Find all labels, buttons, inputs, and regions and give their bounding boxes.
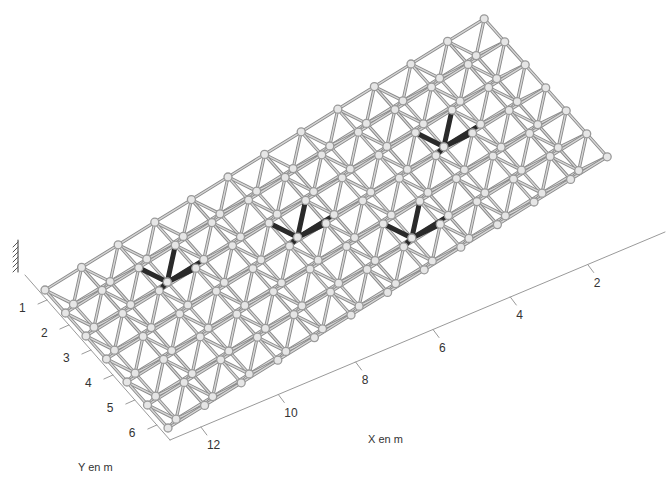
bottom-node: [399, 97, 407, 105]
top-node: [562, 107, 570, 115]
bottom-node: [131, 369, 139, 377]
top-node: [297, 128, 305, 136]
support-hatch: [13, 262, 18, 267]
bottom-node: [278, 279, 286, 287]
top-node: [359, 197, 367, 205]
x-tick-mark: [278, 395, 284, 403]
support-hatch: [13, 257, 18, 262]
y-tick-mark: [38, 300, 47, 304]
support-hatch: [13, 242, 18, 247]
top-node: [160, 355, 168, 363]
top-node: [457, 243, 465, 251]
top-node: [375, 151, 383, 159]
top-node: [343, 242, 351, 250]
bottom-node: [493, 75, 501, 83]
top-node: [237, 379, 245, 387]
x-tick-label: 6: [439, 342, 446, 354]
bottom-node: [383, 142, 391, 150]
bottom-node: [147, 324, 155, 332]
y-tick-mark: [82, 350, 91, 354]
top-node: [505, 106, 513, 114]
x-axis-label: X en m: [368, 434, 403, 445]
bottom-node: [481, 189, 489, 197]
top-node: [78, 263, 86, 271]
top-node: [155, 287, 163, 295]
top-node: [480, 15, 488, 23]
top-node: [82, 332, 90, 340]
top-node: [233, 310, 241, 318]
bottom-node: [497, 143, 505, 151]
bottom-node: [444, 211, 452, 219]
x-tick-label: 8: [362, 374, 369, 386]
bottom-node: [168, 347, 176, 355]
bottom-node: [253, 187, 261, 195]
bottom-node: [143, 255, 151, 263]
top-node: [546, 152, 554, 160]
y-tick-mark: [148, 425, 157, 429]
top-node: [41, 286, 49, 294]
bottom-node: [355, 302, 363, 310]
top-node: [171, 241, 179, 249]
y-tick-label: 4: [85, 377, 92, 389]
top-node: [473, 198, 481, 206]
bottom-node: [184, 301, 192, 309]
top-node: [269, 288, 277, 296]
bottom-node: [188, 370, 196, 378]
truss-plot: [0, 0, 669, 481]
y-tick-mark: [60, 325, 69, 329]
top-node: [354, 128, 362, 136]
top-node: [485, 83, 493, 91]
top-node: [436, 220, 444, 228]
top-node: [432, 152, 440, 160]
top-node: [521, 61, 529, 69]
top-node: [327, 288, 335, 296]
bottom-node: [204, 324, 212, 332]
bottom-node: [294, 233, 302, 241]
top-node: [253, 333, 261, 341]
top-node: [452, 175, 460, 183]
top-node: [123, 378, 131, 386]
top-node: [338, 174, 346, 182]
axes-lines: [25, 232, 665, 440]
x-tick-mark: [510, 297, 516, 305]
bottom-node: [477, 120, 485, 128]
top-node: [428, 83, 436, 91]
top-node: [164, 424, 172, 432]
top-node: [265, 219, 273, 227]
top-node: [212, 287, 220, 295]
bottom-node: [172, 415, 180, 423]
top-node: [192, 264, 200, 272]
y-axis-label: Y en m: [78, 462, 113, 473]
top-node: [603, 153, 611, 161]
top-node: [302, 196, 310, 204]
bottom-node: [424, 188, 432, 196]
top-node: [201, 401, 209, 409]
bottom-node: [513, 98, 521, 106]
bottom-node: [392, 280, 400, 288]
x-tick-label: 4: [516, 309, 523, 321]
top-node: [384, 288, 392, 296]
bottom-node: [163, 278, 171, 286]
y-tick-label: 2: [41, 327, 48, 339]
top-node: [444, 37, 452, 45]
x-tick-mark: [588, 265, 594, 273]
top-node: [407, 60, 415, 68]
bottom-node: [403, 165, 411, 173]
bottom-node: [362, 119, 370, 127]
bottom-node: [106, 278, 114, 286]
bottom-node: [209, 393, 217, 401]
bottom-node: [367, 188, 375, 196]
top-node: [62, 309, 70, 317]
bottom-node: [273, 210, 281, 218]
bottom-node: [428, 257, 436, 265]
top-node: [196, 333, 204, 341]
top-node: [420, 266, 428, 274]
top-node: [119, 309, 127, 317]
top-node: [98, 286, 106, 294]
x-tick-mark: [356, 362, 362, 370]
top-node: [306, 265, 314, 273]
top-node: [464, 60, 472, 68]
top-node: [103, 355, 111, 363]
bottom-node: [179, 232, 187, 240]
top-node: [583, 130, 591, 138]
